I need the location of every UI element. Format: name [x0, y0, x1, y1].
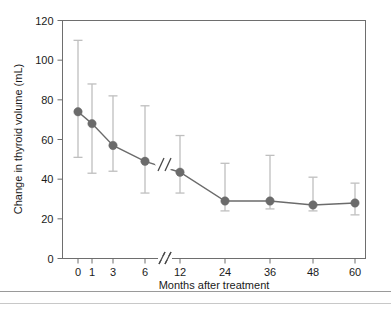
x-axis: 01361224364860 [75, 259, 361, 278]
y-tick-label: 100 [35, 54, 53, 66]
y-axis: 020406080100120 [35, 15, 62, 265]
data-point-marker [176, 168, 184, 176]
x-axis-title: Months after treatment [159, 279, 270, 291]
x-axis-break-icon [158, 252, 172, 264]
y-axis-title: Change in thyroid volume (mL) [12, 64, 24, 214]
x-tick-label: 1 [89, 266, 95, 278]
data-point-marker [351, 199, 359, 207]
data-point-marker [309, 201, 317, 209]
x-tick-label: 12 [174, 266, 186, 278]
footer-divider-secondary [0, 303, 391, 304]
series-line-break-icon [153, 153, 175, 175]
thyroid-volume-line-chart: 020406080100120 01361224364860 Months af… [0, 0, 391, 310]
y-tick-label: 20 [41, 213, 53, 225]
x-tick-label: 0 [75, 266, 81, 278]
data-point-marker [109, 141, 117, 149]
y-tick-label: 80 [41, 94, 53, 106]
data-point-marker [88, 119, 96, 127]
error-bars [74, 40, 360, 215]
x-tick-label: 36 [264, 266, 276, 278]
x-tick-label: 3 [110, 266, 116, 278]
data-point-marker [141, 157, 149, 165]
y-tick-label: 0 [47, 253, 53, 265]
x-tick-label: 48 [307, 266, 319, 278]
x-tick-label: 60 [349, 266, 361, 278]
chart-figure: 020406080100120 01361224364860 Months af… [0, 0, 391, 310]
y-tick-label: 40 [41, 173, 53, 185]
x-tick-label: 6 [142, 266, 148, 278]
data-point-marker [266, 197, 274, 205]
x-tick-label: 24 [219, 266, 231, 278]
footer-divider [0, 291, 391, 292]
y-tick-label: 120 [35, 15, 53, 27]
data-point-marker [74, 108, 82, 116]
y-tick-label: 60 [41, 134, 53, 146]
data-point-marker [221, 197, 229, 205]
data-point-markers [74, 108, 359, 210]
